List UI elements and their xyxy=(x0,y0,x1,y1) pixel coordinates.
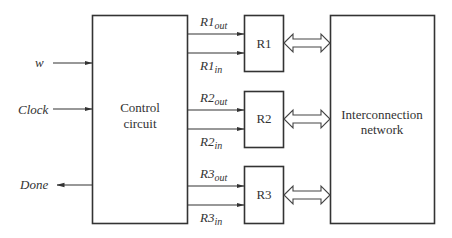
control-label-line1: Control xyxy=(120,100,160,115)
signal-done: Done xyxy=(19,177,92,192)
register-r3-label: R3 xyxy=(256,187,271,202)
register-r2-label: R2 xyxy=(256,111,271,126)
r3-in-label: R3in xyxy=(199,210,222,227)
r1-in-label: R1in xyxy=(199,58,222,75)
register-r1-label: R1 xyxy=(256,36,271,51)
signal-done-label: Done xyxy=(19,177,48,192)
signal-clock: Clock xyxy=(18,102,92,117)
signal-w-label: w xyxy=(35,55,44,70)
interconnect-label-line2: network xyxy=(361,122,404,137)
control-label-line2: circuit xyxy=(123,116,157,131)
signal-w: w xyxy=(35,55,92,70)
control-circuit-block: Control circuit xyxy=(93,16,188,224)
r1-out-label: R1out xyxy=(199,14,227,31)
register-r1: R1 R1out R1in xyxy=(188,14,330,75)
control-circuit-diagram: Control circuit Interconnection network … xyxy=(0,0,452,238)
bidirectional-arrow-icon xyxy=(284,186,330,204)
bidirectional-arrow-icon xyxy=(284,34,330,52)
register-r3: R3 R3out R3in xyxy=(188,166,330,227)
r2-in-label: R2in xyxy=(199,134,222,151)
r2-out-label: R2out xyxy=(199,90,227,107)
interconnect-label-line1: Interconnection xyxy=(341,107,423,122)
bidirectional-arrow-icon xyxy=(284,110,330,128)
r3-out-label: R3out xyxy=(199,166,227,183)
interconnection-network-block: Interconnection network xyxy=(331,16,435,224)
register-r2: R2 R2out R2in xyxy=(188,90,330,151)
signal-clock-label: Clock xyxy=(18,102,49,117)
